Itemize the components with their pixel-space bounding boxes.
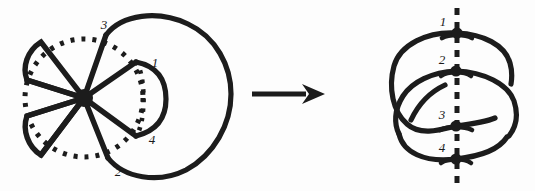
transformation-arrow [252,84,325,104]
left-diagram: 1 2 3 4 [25,16,231,179]
figure-container: 1 2 3 4 [0,0,535,191]
upper-loop-back [392,33,457,131]
left-label-3: 3 [100,17,108,32]
node-3-label: 3 [438,107,446,122]
node-4-dot [450,153,461,164]
node-2-label: 2 [439,52,446,67]
left-label-2: 2 [115,164,122,179]
petal-bottom-right [84,98,136,158]
node-3-dot [450,120,461,131]
node-1-dot [451,27,462,38]
petal-upper-right [84,35,136,98]
left-label-1: 1 [152,55,159,70]
hub-node [75,89,93,107]
node-1-label: 1 [440,14,447,29]
node-2-dot [450,65,461,76]
right-diagram: 1 2 3 4 [392,8,517,186]
left-label-4: 4 [149,132,156,147]
upper-loop-front-lower [456,118,495,126]
node-4-label: 4 [439,140,446,155]
figure-canvas: 1 2 3 4 [0,0,535,191]
